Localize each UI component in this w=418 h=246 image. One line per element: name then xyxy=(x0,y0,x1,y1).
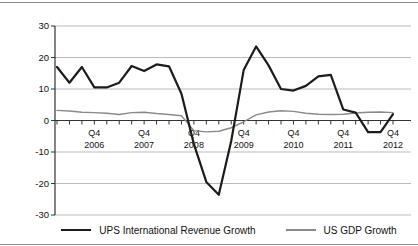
legend-item-gdp: US GDP Growth xyxy=(286,225,397,236)
x-axis-label-q: Q4 xyxy=(287,128,299,138)
bottom-rule xyxy=(0,244,418,245)
legend-label-ups: UPS International Revenue Growth xyxy=(99,225,255,236)
y-axis-label--10: -10 xyxy=(35,146,49,157)
x-axis-label-year: 2009 xyxy=(234,140,254,150)
chart-figure: 3020100-10-20-30Q42006Q42007Q42008Q42009… xyxy=(0,0,418,246)
x-axis-label-q: Q4 xyxy=(138,128,150,138)
x-axis-label-year: 2012 xyxy=(383,140,403,150)
legend-item-ups: UPS International Revenue Growth xyxy=(61,225,255,236)
gdp-line-swatch xyxy=(286,229,316,231)
ups-line-swatch xyxy=(61,229,91,231)
y-axis-label-0: 0 xyxy=(44,115,49,126)
legend-label-gdp: US GDP Growth xyxy=(324,225,397,236)
y-axis-label-20: 20 xyxy=(38,52,49,63)
chart-legend: UPS International Revenue Growth US GDP … xyxy=(0,218,418,242)
x-axis-label-q: Q4 xyxy=(337,128,349,138)
x-axis-label-year: 2011 xyxy=(334,140,353,150)
x-axis-label-year: 2007 xyxy=(134,140,154,150)
y-axis-label-30: 30 xyxy=(38,20,49,31)
y-axis-label-10: 10 xyxy=(38,83,49,94)
x-axis-label-year: 2010 xyxy=(283,140,303,150)
x-axis-label-q: Q4 xyxy=(238,128,250,138)
x-axis-label-year: 2006 xyxy=(84,140,104,150)
y-axis-label--20: -20 xyxy=(35,178,49,189)
x-axis-label-q: Q4 xyxy=(387,128,399,138)
y-axis-label--30: -30 xyxy=(35,209,49,218)
line-chart-plot: 3020100-10-20-30Q42006Q42007Q42008Q42009… xyxy=(0,0,418,218)
x-axis-label-q: Q4 xyxy=(88,128,100,138)
